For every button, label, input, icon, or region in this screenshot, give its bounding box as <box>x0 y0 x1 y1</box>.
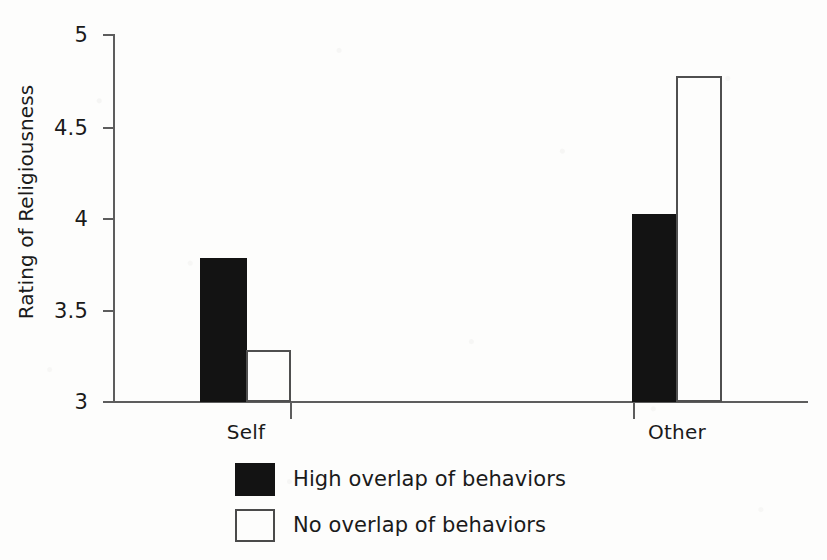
y-tick-label-4p5: 4.5 <box>42 118 88 139</box>
x-tick-label-self: Self <box>186 420 306 444</box>
legend-label-no-overlap: No overlap of behaviors <box>293 515 546 536</box>
x-tick-mark-self <box>290 402 292 419</box>
legend-swatch-hollow-icon <box>235 509 275 542</box>
bar-self-high-overlap <box>200 258 247 402</box>
y-tick-label-3: 3 <box>42 392 88 413</box>
legend-item-high-overlap: High overlap of behaviors <box>235 456 566 502</box>
bar-other-no-overlap <box>676 76 722 402</box>
x-tick-mark-other <box>633 402 635 419</box>
bar-other-high-overlap <box>632 214 678 402</box>
y-tick-label-5: 5 <box>42 25 88 46</box>
chart-legend: High overlap of behaviors No overlap of … <box>235 456 566 548</box>
religiousness-bar-chart: Rating of Religiousness 5 4.5 4 3.5 3 Se… <box>0 0 827 560</box>
x-tick-label-other: Other <box>617 420 737 444</box>
y-axis-line <box>113 34 115 403</box>
legend-label-high-overlap: High overlap of behaviors <box>293 469 566 490</box>
bar-self-no-overlap <box>246 350 291 402</box>
legend-item-no-overlap: No overlap of behaviors <box>235 502 566 548</box>
y-tick-label-4: 4 <box>42 209 88 230</box>
legend-swatch-filled-icon <box>235 463 275 496</box>
y-axis-title: Rating of Religiousness <box>16 77 36 327</box>
y-tick-label-3p5: 3.5 <box>42 301 88 322</box>
